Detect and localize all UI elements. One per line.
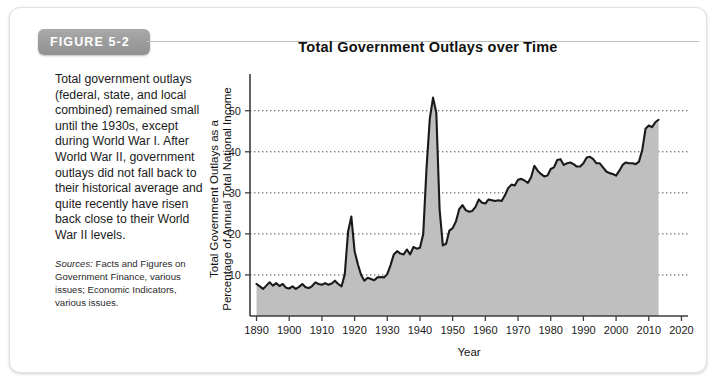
x-tick-label: 1920 — [342, 324, 366, 336]
sources-block: Sources: Facts and Figures on Government… — [55, 257, 203, 310]
x-axis-ticks: 1890190019101920193019401950196019701980… — [244, 316, 693, 336]
y-axis-title-line: Percentage of Annual Total National Inco… — [221, 87, 233, 311]
sources-label: Sources: — [55, 258, 93, 269]
x-tick-label: 1900 — [277, 324, 301, 336]
chart-plot-area: 1020304050 18901900191019201930194019501… — [206, 68, 694, 358]
x-tick-label: 1910 — [310, 324, 334, 336]
caption-block: Total government outlays (federal, state… — [55, 72, 203, 309]
x-tick-label: 2010 — [637, 324, 661, 336]
y-axis-title: Total Government Outlays as aPercentage … — [208, 87, 233, 311]
x-tick-label: 1930 — [375, 324, 399, 336]
x-tick-label: 1970 — [506, 324, 530, 336]
figure-caption: Total government outlays (federal, state… — [55, 72, 203, 244]
figure-panel: FIGURE 5-2 Total Government Outlays over… — [9, 7, 707, 373]
x-tick-label: 1950 — [440, 324, 464, 336]
chart-title: Total Government Outlays over Time — [157, 39, 699, 55]
x-tick-label: 1890 — [244, 324, 268, 336]
y-axis-title-line: Total Government Outlays as a — [208, 119, 220, 277]
x-tick-label: 2020 — [669, 324, 693, 336]
x-axis-title: Year — [457, 346, 480, 358]
figure-number-badge: FIGURE 5-2 — [38, 29, 150, 55]
x-tick-label: 1990 — [571, 324, 595, 336]
x-tick-label: 1960 — [473, 324, 497, 336]
x-tick-label: 1940 — [408, 324, 432, 336]
outlays-area-chart: 1020304050 18901900191019201930194019501… — [206, 68, 694, 358]
x-tick-label: 2000 — [604, 324, 628, 336]
x-tick-label: 1980 — [538, 324, 562, 336]
figure-number-label: FIGURE 5-2 — [50, 35, 130, 49]
